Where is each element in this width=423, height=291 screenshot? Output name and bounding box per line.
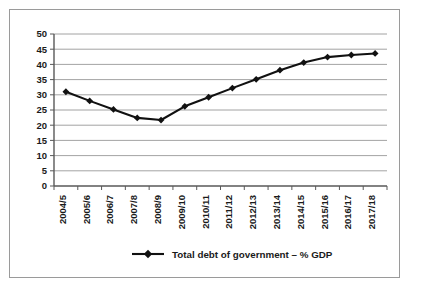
data-point-marker — [324, 54, 331, 61]
x-axis-tick-label: 2016/17 — [342, 195, 353, 229]
x-axis-tick-label: 2017/18 — [366, 195, 377, 229]
legend-marker-diamond — [144, 250, 152, 258]
y-axis-tick-label: 45 — [36, 44, 47, 55]
data-point-marker — [253, 76, 260, 83]
x-axis-tick-label: 2004/5 — [57, 194, 68, 224]
x-axis-tick-label: 2013/14 — [271, 194, 282, 229]
data-point-marker — [229, 85, 236, 92]
y-axis-tick-label: 0 — [42, 180, 47, 191]
chart-frame: 051015202530354045502004/52005/62006/720… — [9, 9, 400, 278]
x-axis-tick-label: 2008/9 — [152, 195, 163, 224]
x-axis-tick-label: 2009/10 — [176, 195, 187, 229]
y-axis-tick-label: 10 — [36, 150, 47, 161]
y-axis-tick-label: 40 — [36, 59, 47, 70]
x-axis-tick-label: 2005/6 — [81, 195, 92, 224]
y-axis-tick-label: 20 — [36, 120, 47, 131]
x-axis-tick-label: 2007/8 — [128, 195, 139, 224]
data-point-marker — [277, 67, 284, 74]
x-axis-tick-label: 2006/7 — [104, 195, 115, 224]
data-point-marker — [62, 88, 69, 95]
line-chart: 051015202530354045502004/52005/62006/720… — [10, 10, 399, 277]
data-point-marker — [300, 59, 307, 66]
x-axis-tick-label: 2014/15 — [295, 194, 306, 229]
x-axis-tick-label: 2010/11 — [200, 194, 211, 229]
x-axis-tick-label: 2011/12 — [223, 195, 234, 229]
y-axis-tick-label: 30 — [36, 89, 47, 100]
x-axis-tick-label: 2015/16 — [319, 195, 330, 229]
y-axis-tick-label: 15 — [36, 135, 47, 146]
y-axis-tick-label: 25 — [36, 104, 47, 115]
data-point-marker — [110, 106, 117, 113]
data-point-marker — [134, 115, 141, 122]
y-axis-tick-label: 5 — [42, 165, 48, 176]
y-axis-tick-label: 35 — [36, 74, 47, 85]
legend-label: Total debt of government – % GDP — [172, 249, 333, 260]
data-point-marker — [372, 50, 379, 57]
data-point-marker — [348, 52, 355, 59]
x-axis-tick-label: 2012/13 — [247, 195, 258, 229]
data-point-marker — [86, 97, 93, 104]
y-axis-tick-label: 50 — [36, 28, 47, 39]
